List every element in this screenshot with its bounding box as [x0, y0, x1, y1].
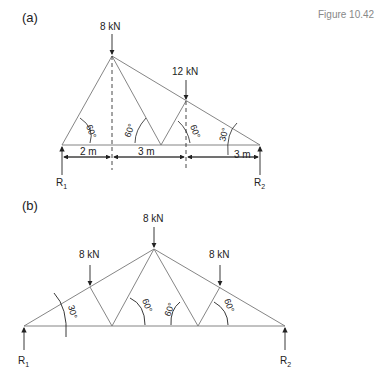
load-b-right: 8 kN	[209, 249, 230, 260]
angle-a2: 60°	[122, 122, 136, 139]
load-b-left: 8 kN	[79, 249, 100, 260]
dim-3m-b: 3 m	[234, 149, 251, 160]
angle-a1: 60°	[84, 123, 98, 140]
dim-2m: 2 m	[80, 146, 97, 157]
part-b-label: (b)	[22, 198, 38, 213]
angle-b3: 60°	[162, 301, 176, 318]
part-a-label: (a)	[22, 10, 38, 25]
load-b-top: 8 kN	[143, 213, 164, 224]
r2-b: R2	[280, 355, 291, 368]
figure-label: Figure 10.42	[318, 9, 375, 20]
angle-a3: 60°	[188, 123, 202, 140]
r1-b: R1	[18, 355, 29, 368]
r2-a: R2	[254, 177, 265, 190]
truss-b	[24, 249, 285, 337]
dim-3m: 3 m	[138, 146, 155, 157]
angle-b1: 30°	[66, 304, 79, 320]
truss-diagrams: (a) Figure 10.42 8 kN 12 kN 2 m 3 m 3 m …	[0, 0, 389, 380]
loads-b	[24, 227, 285, 350]
load-8kn: 8 kN	[100, 21, 121, 32]
r1-a: R1	[56, 177, 67, 190]
load-12kn: 12 kN	[172, 66, 198, 77]
